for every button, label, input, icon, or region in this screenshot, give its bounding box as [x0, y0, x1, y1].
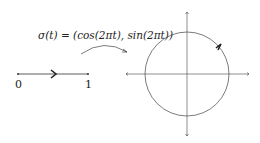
mapping-arrow: [81, 45, 127, 54]
parametrization-diagram: σ(t) = (cos(2πt), sin(2πt)) 0 1: [0, 0, 260, 143]
interval-start-dot: [17, 73, 19, 75]
interval-start-label: 0: [15, 78, 22, 91]
interval-end-label: 1: [85, 78, 92, 91]
circle-direction-arrow-icon: [216, 44, 221, 50]
formula-label: σ(t) = (cos(2πt), sin(2πt)): [38, 29, 173, 41]
interval-end-dot: [87, 73, 89, 75]
